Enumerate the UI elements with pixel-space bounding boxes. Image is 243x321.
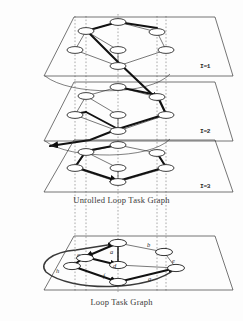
plane-2-nodes (67, 84, 174, 135)
caption-loop-task-graph: Loop Task Graph (0, 297, 243, 307)
node-a-i2[interactable] (110, 84, 126, 91)
node-a-loop[interactable] (110, 239, 127, 246)
node-label-a: a (110, 248, 113, 255)
node-f-loop[interactable] (64, 262, 81, 269)
plane-iteration-1: I=1 (44, 17, 233, 100)
plane-3-nodes (67, 142, 174, 186)
task-graph-diagram: I=1 (0, 0, 243, 321)
node-d-i1[interactable] (110, 47, 126, 54)
node-d-i3[interactable] (110, 165, 126, 172)
plane-1-nodes (67, 19, 174, 70)
node-e-loop[interactable] (168, 264, 185, 271)
plane-label-3: I=3 (200, 183, 211, 190)
figure-container: I=1 (0, 0, 243, 321)
node-g-i1[interactable] (110, 63, 126, 70)
node-f-i3[interactable] (67, 165, 83, 172)
plane-iteration-2: I=2 (44, 82, 233, 155)
node-d-i2[interactable] (110, 112, 126, 119)
node-c-i1[interactable] (78, 28, 94, 35)
node-e-i2[interactable] (158, 112, 174, 119)
node-label-c: c (77, 251, 80, 258)
plane-loop-task-graph: a b c d e f g h (44, 236, 233, 290)
node-c-i2[interactable] (78, 93, 94, 100)
node-label-h: h (56, 267, 59, 274)
node-c-i3[interactable] (78, 149, 94, 156)
node-f-i2[interactable] (67, 112, 83, 119)
plane-label-2: I=2 (200, 128, 211, 135)
node-b-loop[interactable] (156, 248, 173, 255)
node-g-i2[interactable] (110, 128, 126, 135)
node-b-i2[interactable] (149, 94, 165, 101)
node-e-i3[interactable] (158, 165, 174, 172)
caption-unrolled-loop-task-graph: Unrolled Loop Task Graph (0, 195, 243, 205)
node-g-loop[interactable] (110, 278, 127, 285)
plane-iteration-3: I=3 (44, 140, 233, 192)
loop-nodes (64, 239, 185, 285)
node-label-e: e (172, 257, 175, 264)
node-a-i1[interactable] (110, 19, 126, 26)
loopback-arc-1 (45, 74, 170, 91)
node-e-i1[interactable] (158, 47, 174, 54)
plane-label-1: I=1 (200, 63, 211, 70)
node-b-i1[interactable] (149, 29, 165, 36)
node-f-i1[interactable] (67, 47, 83, 54)
node-a-i3[interactable] (110, 142, 126, 149)
node-g-i3[interactable] (110, 179, 126, 186)
node-b-i3[interactable] (149, 150, 165, 157)
node-label-b: b (147, 241, 151, 248)
